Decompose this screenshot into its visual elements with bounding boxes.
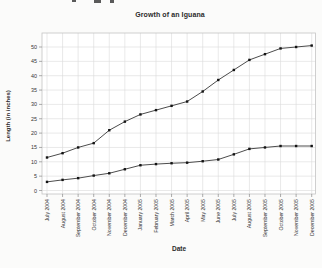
x-tick-label: June 2005 [215, 199, 221, 223]
y-tick-label: 30 [31, 101, 37, 107]
y-tick-label: 50 [31, 44, 37, 50]
x-tick-label: August 2004 [60, 199, 66, 228]
x-tick-label: February 2005 [153, 199, 159, 233]
data-point [217, 158, 219, 160]
clipped-text-fragment [94, 0, 101, 3]
data-point [170, 162, 172, 164]
data-point [77, 177, 79, 179]
data-point [264, 53, 266, 55]
y-tick-label: 0 [34, 188, 37, 194]
data-point [310, 145, 312, 147]
x-axis-label: Date [42, 245, 316, 252]
data-point [279, 47, 281, 49]
data-point [186, 161, 188, 163]
data-point [139, 164, 141, 166]
data-point [217, 79, 219, 81]
x-tick-label: August 2005 [246, 199, 252, 228]
data-point [155, 163, 157, 165]
x-tick-label: October 2004 [91, 199, 97, 231]
data-point [310, 44, 312, 46]
y-tick-label: 35 [31, 87, 37, 93]
chart-page: Growth of an Iguana 05101520253035404550… [0, 0, 322, 268]
x-tick-label: July 2004 [44, 199, 50, 221]
y-tick-label: 45 [31, 58, 37, 64]
data-point [124, 168, 126, 170]
data-point [108, 172, 110, 174]
y-tick-label: 10 [31, 159, 37, 165]
data-point [61, 152, 63, 154]
data-point [295, 46, 297, 48]
data-point [248, 59, 250, 61]
data-point [46, 181, 48, 183]
data-point [202, 160, 204, 162]
growth-line-chart: 05101520253035404550July 2004August 2004… [0, 0, 322, 268]
x-tick-label: July 2005 [231, 199, 237, 221]
data-point [202, 90, 204, 92]
data-point [295, 145, 297, 147]
data-point [170, 105, 172, 107]
data-point [46, 156, 48, 158]
data-point [61, 179, 63, 181]
data-point [248, 148, 250, 150]
data-point [93, 174, 95, 176]
y-tick-label: 20 [31, 130, 37, 136]
data-point [186, 100, 188, 102]
plot-area [42, 33, 316, 194]
clipped-text-fragment [110, 0, 114, 3]
data-point [279, 145, 281, 147]
y-tick-label: 40 [31, 73, 37, 79]
y-tick-label: 5 [34, 173, 37, 179]
clipped-text-fragment [72, 0, 76, 2]
data-point [233, 69, 235, 71]
data-point [108, 129, 110, 131]
data-point [77, 146, 79, 148]
data-point [155, 109, 157, 111]
x-tick-label: January 2005 [137, 199, 143, 231]
data-point [124, 120, 126, 122]
x-tick-label: September 2004 [75, 199, 81, 237]
x-tick-label: May 2005 [200, 199, 206, 222]
x-tick-label: March 2005 [169, 199, 175, 227]
data-point [233, 153, 235, 155]
x-tick-label: April 2005 [184, 199, 190, 222]
data-point [139, 113, 141, 115]
chart-title: Growth of an Iguana [0, 11, 322, 18]
x-tick-label: December 2004 [122, 199, 128, 236]
x-tick-label: November 2005 [293, 199, 299, 236]
data-point [264, 146, 266, 148]
x-tick-label: December 2005 [309, 199, 315, 236]
x-tick-label: October 2005 [278, 199, 284, 231]
x-tick-label: November 2004 [106, 199, 112, 236]
x-tick-label: September 2005 [262, 199, 268, 237]
y-tick-label: 25 [31, 116, 37, 122]
y-tick-label: 15 [31, 144, 37, 150]
data-point [93, 142, 95, 144]
y-axis-label: Length (in inches) [5, 71, 11, 161]
